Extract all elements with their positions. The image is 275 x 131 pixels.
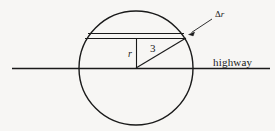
delta-r-leader-arrow [189, 19, 213, 36]
diagram-canvas: highway Δr r 3 [0, 0, 275, 131]
hypotenuse-segment [136, 38, 186, 68]
delta-r-label: Δr [215, 10, 224, 19]
delta-r-variable: r [221, 9, 225, 19]
highway-label: highway [213, 57, 252, 68]
distance-label: 3 [150, 43, 156, 54]
radius-label: r [128, 49, 132, 59]
